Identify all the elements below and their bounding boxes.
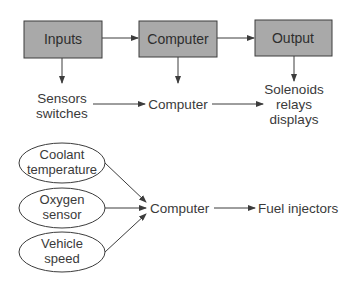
svg-text:relays: relays [276, 97, 312, 112]
svg-text:speed: speed [44, 251, 79, 266]
bottom-computer-label: Computer [150, 201, 210, 216]
svg-text:displays: displays [270, 112, 319, 127]
computer-label: Computer [147, 31, 209, 47]
computer-box: Computer [139, 21, 217, 57]
fuel-injectors-label: Fuel injectors [258, 201, 339, 216]
diagram-canvas: Inputs Computer Output Sensors switches … [0, 0, 350, 281]
solenoids-relays-displays-label: Solenoids relays displays [264, 82, 324, 127]
middle-computer-label: Computer [148, 97, 208, 112]
svg-text:Sensors: Sensors [37, 91, 87, 106]
svg-text:Coolant: Coolant [40, 147, 85, 162]
svg-text:switches: switches [36, 106, 88, 121]
svg-text:Vehicle: Vehicle [41, 236, 83, 251]
svg-text:temperature: temperature [27, 162, 97, 177]
vehicle-speed-ellipse: Vehicle speed [19, 232, 105, 272]
output-label: Output [272, 30, 314, 46]
output-box: Output [255, 20, 332, 56]
svg-text:sensor: sensor [42, 207, 82, 222]
sensors-switches-label: Sensors switches [36, 91, 88, 121]
arrow-vehicle-to-computer [105, 214, 146, 252]
inputs-label: Inputs [44, 31, 82, 47]
arrow-coolant-to-computer [105, 163, 146, 202]
oxygen-sensor-ellipse: Oxygen sensor [19, 188, 105, 228]
coolant-temperature-ellipse: Coolant temperature [19, 143, 105, 183]
inputs-box: Inputs [24, 21, 102, 58]
svg-text:Solenoids: Solenoids [264, 82, 324, 97]
svg-text:Oxygen: Oxygen [40, 192, 85, 207]
